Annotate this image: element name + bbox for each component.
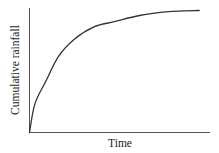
- x-axis-label: Time: [108, 137, 132, 149]
- chart-canvas: Time Cumulative rainfall: [0, 0, 219, 153]
- cumulative-rainfall-curve: [30, 11, 200, 133]
- chart: Time Cumulative rainfall: [0, 0, 219, 153]
- y-axis-label: Cumulative rainfall: [9, 25, 21, 115]
